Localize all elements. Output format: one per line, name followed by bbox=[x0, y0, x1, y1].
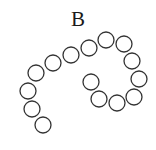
chain-circle bbox=[98, 32, 114, 48]
chain-circle bbox=[24, 101, 40, 117]
chain-circle bbox=[126, 89, 142, 105]
chain-circle bbox=[131, 71, 147, 87]
circle-chain-diagram bbox=[0, 0, 156, 150]
chain-circle bbox=[109, 95, 125, 111]
chain-circle bbox=[45, 55, 61, 71]
chain-circle bbox=[28, 65, 44, 81]
chain-circle bbox=[35, 117, 51, 133]
chain-circle bbox=[20, 83, 36, 99]
chain-circle bbox=[81, 40, 97, 56]
chain-circle bbox=[63, 47, 79, 63]
chain-circle bbox=[124, 53, 140, 69]
chain-circle bbox=[83, 74, 99, 90]
chain-circle bbox=[91, 91, 107, 107]
chain-circle bbox=[116, 36, 132, 52]
